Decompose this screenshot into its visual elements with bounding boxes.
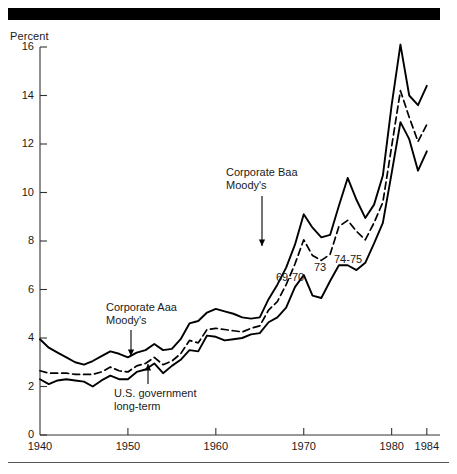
annotation-us-government: U.S. government long-term <box>114 387 197 413</box>
line-chart-plot <box>0 0 457 474</box>
series-line-corporate-aaa <box>40 91 427 375</box>
annotation-corporate-baa-line1: Corporate Baa <box>226 166 298 179</box>
series-line-corporate-baa <box>40 45 427 365</box>
y-tick-label-6: 6 <box>12 283 34 295</box>
bottom-rule <box>8 462 449 463</box>
annotation-recession-73: 73 <box>314 261 326 273</box>
annotation-us-government-line1: U.S. government <box>114 387 197 400</box>
x-tick-label-1960: 1960 <box>196 440 236 452</box>
annotation-corporate-baa-arrowhead <box>259 240 265 247</box>
annotation-corporate-aaa-line1: Corporate Aaa <box>106 301 177 314</box>
series-line-us-government-long-term <box>40 122 427 386</box>
x-tick-label-1950: 1950 <box>108 440 148 452</box>
x-tick-label-1940: 1940 <box>20 440 60 452</box>
y-tick-label-12: 12 <box>12 137 34 149</box>
y-tick-label-2: 2 <box>12 380 34 392</box>
chart-axes <box>40 47 440 435</box>
y-tick-label-0: 0 <box>12 428 34 440</box>
y-tick-label-8: 8 <box>12 234 34 246</box>
x-axis-ticks <box>128 428 427 435</box>
y-axis-ticks <box>40 47 47 435</box>
annotation-corporate-aaa: Corporate Aaa Moody's <box>106 301 177 327</box>
annotation-leader-lines <box>128 196 265 384</box>
y-tick-label-4: 4 <box>12 331 34 343</box>
annotation-us-government-line2: long-term <box>114 400 197 413</box>
y-tick-label-14: 14 <box>12 89 34 101</box>
x-tick-label-1984: 1984 <box>407 440 447 452</box>
annotation-corporate-aaa-line2: Moody's <box>106 314 177 327</box>
x-tick-label-1970: 1970 <box>284 440 324 452</box>
annotation-recession-74-75: 74-75 <box>334 253 362 265</box>
annotation-recession-69-70: 69-70 <box>276 271 304 283</box>
y-tick-label-10: 10 <box>12 186 34 198</box>
annotation-corporate-baa-line2: Moody's <box>226 179 298 192</box>
x-tick-label-1980: 1980 <box>372 440 412 452</box>
data-series-group <box>40 45 427 387</box>
annotation-corporate-baa: Corporate Baa Moody's <box>226 166 298 192</box>
y-tick-label-16: 16 <box>12 40 34 52</box>
chart-figure: Percent 0246810121416 194019501960197019… <box>0 0 457 474</box>
